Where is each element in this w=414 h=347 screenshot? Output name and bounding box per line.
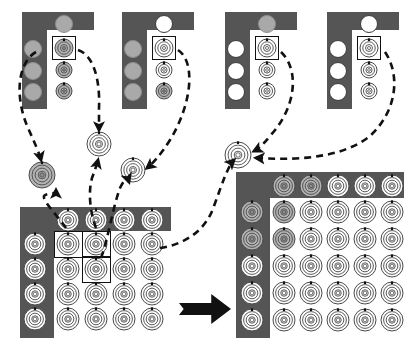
selected-node-a[interactable] [28, 161, 56, 189]
selected-node-b[interactable] [86, 131, 112, 157]
selected-node-c[interactable] [120, 157, 146, 183]
intermediate-nodes-group [0, 0, 414, 347]
selected-node-d[interactable] [224, 141, 252, 169]
diagram-canvas [0, 0, 414, 347]
